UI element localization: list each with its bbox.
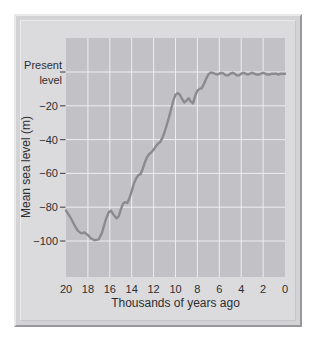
x-tick-label-14: 14 xyxy=(126,283,138,295)
x-tick-label-18: 18 xyxy=(82,283,94,295)
sea-level-chart: 20181614121086420 Presentlevel−20−40−60−… xyxy=(0,0,313,340)
x-tick-label-12: 12 xyxy=(147,283,159,295)
x-tick-label-20: 20 xyxy=(60,283,72,295)
y-tick-label-present-level: Presentlevel xyxy=(24,59,62,86)
y-tick-label--20: −20 xyxy=(39,100,58,112)
x-tick-label-0: 0 xyxy=(282,283,288,295)
y-tick-label--60: −60 xyxy=(39,167,58,179)
y-tick-label--80: −80 xyxy=(39,201,58,213)
y-axis-ticks xyxy=(60,72,66,241)
x-tick-label-2: 2 xyxy=(260,283,266,295)
x-tick-label-4: 4 xyxy=(238,283,244,295)
y-tick-label--40: −40 xyxy=(39,134,58,146)
x-axis-title: Thousands of years ago xyxy=(111,296,240,310)
x-tick-label-16: 16 xyxy=(104,283,116,295)
x-tick-label-6: 6 xyxy=(216,283,222,295)
sea-level-figure: 20181614121086420 Presentlevel−20−40−60−… xyxy=(0,0,313,340)
x-tick-label-8: 8 xyxy=(194,283,200,295)
x-tick-labels: 20181614121086420 xyxy=(60,283,288,295)
y-tick-label--100: −100 xyxy=(33,235,58,247)
x-tick-label-10: 10 xyxy=(169,283,181,295)
y-axis-title: Mean sea level (m) xyxy=(19,116,33,218)
